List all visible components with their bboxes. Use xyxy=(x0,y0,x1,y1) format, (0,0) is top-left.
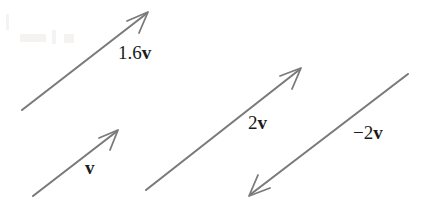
vector-label-scaled-prefix: 1.6 xyxy=(118,42,142,63)
vector-canvas xyxy=(0,0,421,216)
vector-unit xyxy=(33,130,118,196)
vector-label-negative-double: −2v xyxy=(353,123,383,142)
vector-label-double: 2v xyxy=(248,113,267,132)
vector-label-unit: v xyxy=(85,158,95,177)
vector-shaft-negative-double xyxy=(251,74,408,194)
vector-label-scaled: 1.6v xyxy=(118,43,151,62)
vector-label-negative-double-symbol: v xyxy=(373,122,383,143)
vector-shaft-unit xyxy=(33,132,116,196)
vector-label-negative-double-prefix: −2 xyxy=(353,122,373,143)
vector-label-unit-symbol: v xyxy=(85,157,95,178)
vector-double xyxy=(146,68,301,190)
vector-negative-double xyxy=(249,74,408,196)
vector-diagram-figure: 1.6v v 2v −2v xyxy=(0,0,421,216)
vector-label-scaled-symbol: v xyxy=(142,42,152,63)
vector-label-double-symbol: v xyxy=(258,112,268,133)
vector-shaft-double xyxy=(146,70,299,190)
vector-label-double-prefix: 2 xyxy=(248,112,258,133)
